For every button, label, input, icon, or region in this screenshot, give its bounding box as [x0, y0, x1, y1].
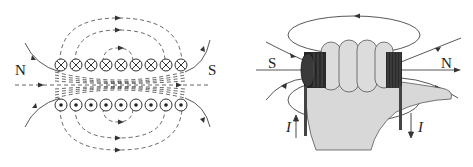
hand [306, 40, 452, 150]
north-pole-label: N [15, 63, 26, 78]
north-pole-label: N [441, 56, 452, 71]
south-pole-label: S [268, 56, 276, 71]
current-label-left: I [286, 120, 291, 135]
current-label-right: I [418, 120, 423, 135]
into-page-conductors [55, 59, 187, 71]
solenoid-field-lines [0, 0, 236, 167]
solenoid-field-diagram: N S [0, 0, 236, 167]
south-pole-label: S [208, 63, 216, 78]
out-of-page-conductors [55, 99, 187, 111]
hand-and-coil [236, 0, 473, 167]
right-hand-rule-diagram: S N I I [236, 0, 473, 167]
